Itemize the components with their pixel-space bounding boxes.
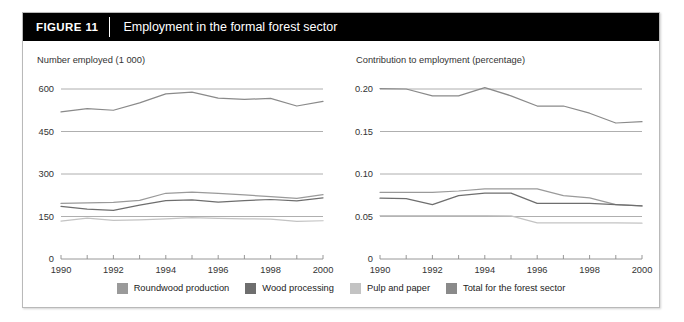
- legend-item: Wood processing: [245, 283, 334, 294]
- chart-right-ytick-label: 0.20: [355, 84, 373, 94]
- chart-left-xtick-label: 1994: [155, 265, 176, 273]
- chart-right-xtick-label: 1994: [474, 265, 495, 273]
- chart-right-xtick-label: 1998: [579, 265, 600, 273]
- legend-item: Pulp and paper: [350, 283, 430, 294]
- figure-root: FIGURE 11 Employment in the formal fores…: [0, 0, 684, 322]
- legend-swatch: [245, 283, 256, 294]
- chart-right-series: [380, 88, 642, 223]
- chart-left-xtick-label: 1996: [208, 265, 229, 273]
- figure-frame: FIGURE 11 Employment in the formal fores…: [22, 12, 660, 308]
- chart-left-svg: 0150300450600 199019921994199619982000: [23, 41, 342, 273]
- legend-item: Total for the forest sector: [446, 283, 565, 294]
- legend-label: Total for the forest sector: [463, 283, 565, 293]
- chart-left-xtick-label: 1990: [51, 265, 72, 273]
- chart-left-ytick-label: 600: [38, 84, 54, 94]
- chart-left-ytick-label: 450: [38, 127, 54, 137]
- figure-title: Employment in the formal forest sector: [110, 20, 337, 34]
- chart-left-line: [61, 198, 323, 210]
- legend-swatch: [350, 283, 361, 294]
- chart-right-xtick-label: 2000: [632, 265, 653, 273]
- chart-left-xtick-label: 1992: [103, 265, 124, 273]
- chart-legend: Roundwood productionWood processingPulp …: [23, 273, 659, 303]
- chart-right-xtick-label: 1996: [527, 265, 548, 273]
- chart-right-gridlines: [380, 89, 642, 217]
- chart-left-ytick-label: 0: [49, 254, 54, 264]
- legend-item: Roundwood production: [117, 283, 230, 294]
- chart-right-xtick-label: 1992: [422, 265, 443, 273]
- chart-left-series: [61, 92, 323, 221]
- chart-left-xtick-label: 1998: [260, 265, 281, 273]
- figure-header: FIGURE 11 Employment in the formal fores…: [23, 13, 659, 41]
- legend-label: Wood processing: [262, 283, 334, 293]
- chart-panel-employment: Number employed (1 000) 0150300450600 19…: [23, 41, 342, 273]
- chart-left-xaxis: 199019921994199619982000: [51, 255, 334, 273]
- chart-left-ytick-label: 300: [38, 169, 54, 179]
- chart-left-xtick-label: 2000: [313, 265, 334, 273]
- chart-right-line: [380, 189, 642, 206]
- chart-left-ytick-label: 150: [38, 212, 54, 222]
- legend-label: Pulp and paper: [367, 283, 430, 293]
- chart-right-ytick-label: 0.15: [355, 127, 373, 137]
- legend-label: Roundwood production: [134, 283, 230, 293]
- legend-swatch: [446, 283, 457, 294]
- charts-area: Number employed (1 000) 0150300450600 19…: [23, 41, 659, 309]
- figure-number: FIGURE 11: [23, 21, 109, 33]
- chart-right-line: [380, 88, 642, 123]
- chart-left-yticks: 0150300450600: [38, 84, 54, 264]
- chart-right-line: [380, 193, 642, 206]
- chart-left-line: [61, 92, 323, 112]
- chart-left-line: [61, 192, 323, 203]
- chart-right-ytick-label: 0: [368, 254, 373, 264]
- chart-right-xtick-label: 1990: [370, 265, 391, 273]
- chart-right-svg: 00.050.100.150.20 1990199219941996199820…: [342, 41, 661, 273]
- chart-right-ytick-label: 0.05: [355, 212, 373, 222]
- chart-left-line: [61, 218, 323, 222]
- legend-swatch: [117, 283, 128, 294]
- chart-right-ytick-label: 0.10: [355, 169, 373, 179]
- chart-right-xaxis: 199019921994199619982000: [370, 255, 653, 273]
- chart-right-yticks: 00.050.100.150.20: [355, 84, 373, 264]
- chart-panel-contribution: Contribution to employment (percentage) …: [342, 41, 661, 273]
